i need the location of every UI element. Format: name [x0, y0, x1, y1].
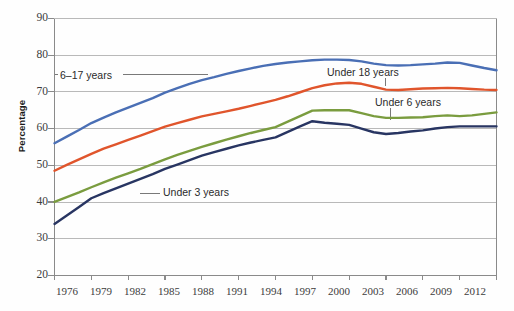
- series-line-under-3-years: [55, 121, 497, 224]
- series-line-under-6-years: [55, 110, 497, 202]
- y-tick-marks: [48, 19, 54, 276]
- chart-plot-area: [0, 0, 514, 311]
- series-line-6-17-years: [55, 60, 497, 144]
- chart-container: Percentage 90 80 70 60 50 40 30 20 1976 …: [0, 0, 514, 311]
- x-tick-marks: [55, 275, 497, 280]
- data-series-group: [55, 60, 497, 224]
- axis-lines: [54, 18, 497, 276]
